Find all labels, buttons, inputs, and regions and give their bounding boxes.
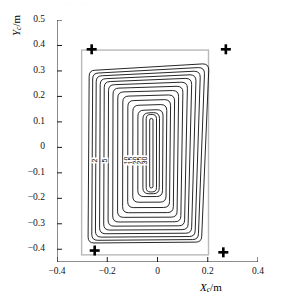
x-axis-title: Xc/m <box>200 281 222 294</box>
contour-level-label: 5 <box>102 158 109 164</box>
contour-level-label: 30 <box>141 156 148 166</box>
marker-top-left <box>87 44 97 54</box>
x-axis-tick-label: −0.4 <box>37 266 77 276</box>
x-axis-title-unit: /m <box>210 281 222 293</box>
x-axis-tick-labels: −0.4−0.200.20.4 <box>0 266 283 282</box>
x-axis-tick-label: 0 <box>138 266 178 276</box>
y-axis-tick-label: −0.3 <box>28 218 45 228</box>
y-axis-tick-label: 0.5 <box>33 14 45 24</box>
figure-title-faint: . . . . . . . . <box>60 0 240 8</box>
y-axis-tick-label: 0.3 <box>33 65 45 75</box>
contour-line <box>88 64 209 243</box>
plot-area <box>57 20 258 262</box>
y-axis-tick-label: 0.4 <box>33 39 45 49</box>
contour-line <box>113 86 183 222</box>
x-axis-tick-label: 0.4 <box>238 266 278 276</box>
y-axis-tick-label: 0.1 <box>33 116 45 126</box>
contour-lines <box>88 64 209 243</box>
plus-marker-bar-v <box>222 247 225 257</box>
y-axis-tick-label: −0.2 <box>28 192 45 202</box>
y-axis-tick-label: 0 <box>40 141 45 151</box>
y-axis-tick-labels: 0.50.40.30.20.10−0.1−0.2−0.3−0.4 <box>0 20 52 262</box>
contour-canvas <box>57 20 258 262</box>
marker-bottom-right <box>218 247 228 257</box>
marker-top-right <box>221 44 231 54</box>
contour-line-innermost <box>150 119 153 188</box>
contour-line <box>146 115 156 192</box>
contour-level-label: 2 <box>92 158 99 164</box>
contour-line <box>108 82 187 226</box>
plus-marker-bar-v <box>90 44 93 54</box>
plus-marker-bar-v <box>93 246 96 256</box>
x-axis-title-main: X <box>200 281 207 293</box>
x-axis-tick-label: −0.2 <box>87 266 127 276</box>
marker-bottom-left <box>90 246 100 256</box>
x-axis-tick-label: 0.2 <box>188 266 228 276</box>
y-axis-tick-label: −0.1 <box>28 167 45 177</box>
contour-line <box>143 113 160 194</box>
y-axis-tick-label: 0.2 <box>33 90 45 100</box>
contour-plot-figure: . . . . . . . . Yc/m Xc/m 0.50.40.30.20.… <box>0 0 283 300</box>
coil-boundary-rect <box>82 50 209 255</box>
y-axis-tick-label: −0.4 <box>28 243 45 253</box>
plus-marker-bar-v <box>225 44 228 54</box>
